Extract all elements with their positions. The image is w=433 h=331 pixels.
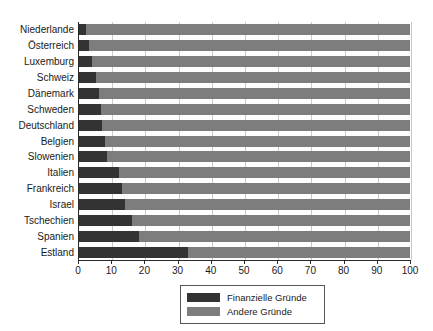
x-tick-label-30: 30	[172, 265, 183, 277]
bar-segment-financial	[79, 167, 119, 178]
bar-row	[79, 24, 410, 35]
plot-area	[78, 22, 410, 260]
bar-segment-other	[107, 151, 410, 162]
x-tick-mark-20	[144, 260, 145, 264]
bar-segment-other	[89, 40, 410, 51]
bar-segment-financial	[79, 72, 96, 83]
x-tick-label-80: 80	[338, 265, 349, 277]
bar-row	[79, 151, 410, 162]
y-axis-label-schweden: Schweden	[0, 104, 74, 115]
y-axis-label-d-nemark: Dänemark	[0, 88, 74, 99]
legend-item: Finanzielle Gründe	[187, 291, 318, 304]
bar-segment-other	[86, 24, 410, 35]
bar-row	[79, 231, 410, 242]
gridline-100	[411, 22, 412, 260]
bar-segment-financial	[79, 136, 105, 147]
bar-segment-financial	[79, 199, 125, 210]
legend-item: Andere Gründe	[187, 305, 318, 318]
bar-segment-other	[99, 88, 410, 99]
y-axis-label-estland: Estland	[0, 247, 74, 258]
bar-segment-financial	[79, 183, 122, 194]
x-tick-label-90: 90	[371, 265, 382, 277]
bar-segment-financial	[79, 247, 188, 258]
bar-segment-other	[101, 104, 410, 115]
bar-segment-other	[132, 215, 410, 226]
bar-row	[79, 72, 410, 83]
x-tick-label-0: 0	[75, 265, 81, 277]
x-tick-mark-90	[377, 260, 378, 264]
x-tick-label-60: 60	[272, 265, 283, 277]
y-axis-label-frankreich: Frankreich	[0, 183, 74, 194]
bar-segment-other	[122, 183, 410, 194]
bar-row	[79, 199, 410, 210]
bar-row	[79, 88, 410, 99]
y-axis-label-luxemburg: Luxemburg	[0, 56, 74, 67]
x-tick-mark-50	[244, 260, 245, 264]
y-axis-category-labels: NiederlandeÖsterreichLuxemburgSchweizDän…	[0, 22, 74, 260]
bar-segment-financial	[79, 104, 101, 115]
legend-label: Finanzielle Gründe	[227, 292, 307, 303]
bar-row	[79, 136, 410, 147]
y-axis-label-schweiz: Schweiz	[0, 72, 74, 83]
chart-legend: Finanzielle GründeAndere Gründe	[180, 285, 325, 324]
bar-segment-financial	[79, 24, 86, 35]
x-tick-mark-40	[211, 260, 212, 264]
bar-segment-financial	[79, 88, 99, 99]
bar-segment-other	[105, 136, 410, 147]
bar-segment-other	[92, 56, 410, 67]
x-tick-mark-0	[78, 260, 79, 264]
y-axis-label-spanien: Spanien	[0, 231, 74, 242]
bar-row	[79, 247, 410, 258]
bar-segment-financial	[79, 231, 139, 242]
bar-row	[79, 183, 410, 194]
y-axis-label-israel: Israel	[0, 199, 74, 210]
x-tick-mark-30	[178, 260, 179, 264]
y-axis-label-italien: Italien	[0, 167, 74, 178]
bars-container	[79, 22, 410, 260]
x-tick-mark-60	[277, 260, 278, 264]
x-tick-label-20: 20	[139, 265, 150, 277]
bar-segment-other	[139, 231, 410, 242]
bar-row	[79, 120, 410, 131]
x-tick-label-70: 70	[305, 265, 316, 277]
bar-segment-financial	[79, 40, 89, 51]
x-tick-label-100: 100	[402, 265, 419, 277]
bar-row	[79, 40, 410, 51]
bar-segment-financial	[79, 215, 132, 226]
bar-segment-financial	[79, 56, 92, 67]
legend-label: Andere Gründe	[227, 306, 292, 317]
x-tick-label-50: 50	[238, 265, 249, 277]
y-axis-label-belgien: Belgien	[0, 136, 74, 147]
bar-row	[79, 215, 410, 226]
y-axis-label--sterreich: Österreich	[0, 40, 74, 51]
bar-row	[79, 56, 410, 67]
bar-segment-other	[188, 247, 410, 258]
bar-segment-financial	[79, 151, 107, 162]
y-axis-label-tschechien: Tschechien	[0, 215, 74, 226]
bar-segment-other	[102, 120, 410, 131]
bar-segment-other	[119, 167, 410, 178]
bar-segment-financial	[79, 120, 102, 131]
bar-row	[79, 104, 410, 115]
y-axis-label-niederlande: Niederlande	[0, 24, 74, 35]
x-tick-label-40: 40	[205, 265, 216, 277]
bar-segment-other	[96, 72, 410, 83]
x-tick-mark-80	[344, 260, 345, 264]
x-tick-label-10: 10	[106, 265, 117, 277]
bar-row	[79, 167, 410, 178]
x-tick-mark-100	[410, 260, 411, 264]
y-axis-label-slowenien: Slowenien	[0, 151, 74, 162]
stacked-bar-chart: NiederlandeÖsterreichLuxemburgSchweizDän…	[0, 0, 433, 331]
bar-segment-other	[125, 199, 410, 210]
legend-swatch-other	[187, 307, 220, 316]
plot-area-wrapper	[78, 22, 410, 260]
x-tick-mark-10	[111, 260, 112, 264]
x-axis-ticks: 0102030405060708090100	[78, 260, 410, 278]
legend-swatch-financial	[187, 293, 220, 302]
x-tick-mark-70	[310, 260, 311, 264]
y-axis-label-deutschland: Deutschland	[0, 120, 74, 131]
